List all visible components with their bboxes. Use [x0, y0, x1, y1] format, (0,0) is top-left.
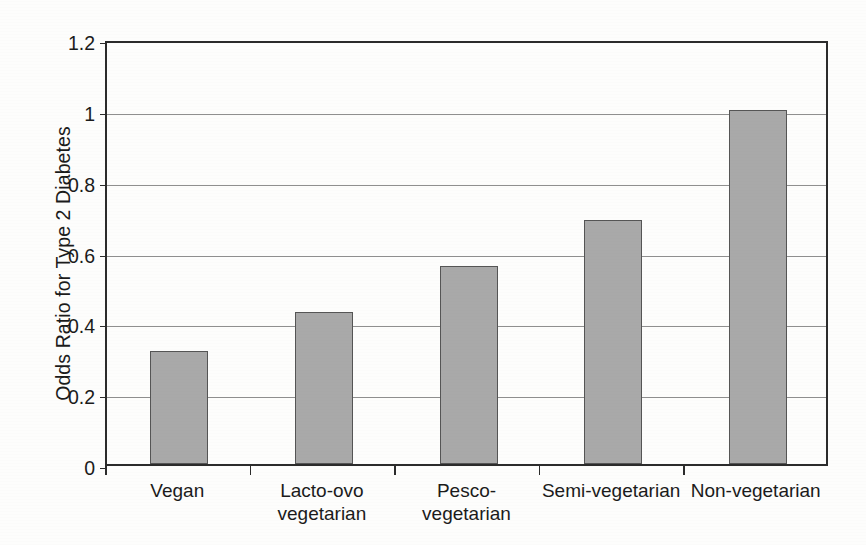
plot-area: 00.20.40.60.811.2 [105, 41, 828, 466]
x-axis-label-vegan: Vegan [105, 479, 250, 502]
y-tick-label: 1 [84, 102, 95, 125]
y-tick-mark [100, 185, 107, 186]
y-tick-label: 0.6 [68, 244, 95, 267]
y-tick-mark [100, 256, 107, 257]
x-tick-mark [683, 466, 685, 475]
x-tick-mark [394, 466, 396, 475]
y-tick-mark [100, 43, 107, 44]
bar-semi-vegetarian [584, 220, 642, 464]
y-tick-mark [100, 114, 107, 115]
chart-figure: Odds Ratio for Type 2 Diabetes 00.20.40.… [0, 0, 866, 545]
y-tick-label: 0.2 [68, 386, 95, 409]
y-tick-mark [100, 397, 107, 398]
y-tick-label: 1.2 [68, 32, 95, 55]
bar-pesco-vegetarian [440, 266, 498, 464]
x-axis-label-lacto-ovo: Lacto-ovo vegetarian [250, 479, 395, 525]
y-tick-label: 0.4 [68, 315, 95, 338]
x-axis-label-pesco-vegetarian: Pesco-vegetarian [394, 479, 539, 525]
y-tick-label: 0.8 [68, 173, 95, 196]
x-axis-label-non-vegetarian: Non-vegetarian [683, 479, 828, 502]
bars-layer [107, 43, 826, 464]
y-tick-label: 0 [84, 457, 95, 480]
x-axis-label-semi-vegetarian: Semi-vegetarian [539, 479, 684, 502]
bar-non-vegetarian [729, 110, 787, 464]
y-tick-mark [100, 326, 107, 327]
x-tick-mark [250, 466, 252, 475]
x-tick-mark [539, 466, 541, 475]
bar-vegan [150, 351, 208, 464]
bar-lacto-ovo-vegetarian [295, 312, 353, 464]
x-tick-mark-origin [105, 466, 107, 475]
